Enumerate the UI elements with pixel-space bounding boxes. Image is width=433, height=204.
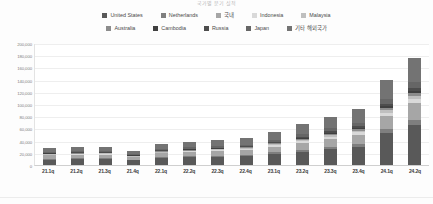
bar-column[interactable] — [373, 44, 401, 165]
bar-segment — [296, 152, 309, 165]
chart-legend: United StatesNetherlands국내IndonesiaMalay… — [0, 9, 433, 35]
legend-item-국내[interactable]: 국내 — [216, 13, 234, 18]
bar-column[interactable] — [232, 44, 260, 165]
plot-area — [34, 44, 429, 166]
stacked-bar[interactable] — [183, 142, 196, 165]
stacked-bar[interactable] — [324, 117, 337, 165]
stacked-bar[interactable] — [240, 138, 253, 165]
legend-item-cambodia[interactable]: Cambodia — [153, 26, 186, 31]
legend-item-japan[interactable]: Japan — [246, 26, 269, 31]
y-axis-tick-label: 20,000 — [19, 151, 32, 156]
y-axis-tick-label: 120,000 — [17, 90, 32, 95]
bar-segment — [99, 159, 112, 165]
y-axis: 200,000180,000160,000140,000120,000100,0… — [0, 44, 34, 166]
x-axis-tick-label: 23.1q — [260, 168, 288, 174]
x-axis-tick-label: 22.1q — [147, 168, 175, 174]
stacked-bar[interactable] — [380, 80, 393, 165]
bar-column[interactable] — [63, 44, 91, 165]
legend-item-label: Malaysia — [309, 13, 330, 18]
y-axis-tick-label: 160,000 — [17, 66, 32, 71]
legend-item-label: Cambodia — [161, 26, 186, 31]
x-axis-tick-label: 21.4q — [119, 168, 147, 174]
x-axis-tick-label: 23.4q — [344, 168, 372, 174]
legend-item-australia[interactable]: Australia — [106, 26, 135, 31]
bar-segment — [408, 82, 421, 89]
bar-segment — [352, 135, 365, 144]
x-axis-tick-label: 23.2q — [288, 168, 316, 174]
y-axis-tick-label: 80,000 — [19, 115, 32, 120]
stacked-bar[interactable] — [268, 132, 281, 165]
legend-item-label: Netherlands — [169, 13, 198, 18]
legend-item-label: Indonesia — [260, 13, 283, 18]
legend-row-2: AustraliaCambodiaRussiaJapan기타 해외국가 — [0, 22, 433, 35]
stacked-bar[interactable] — [127, 151, 140, 165]
stacked-bar[interactable] — [211, 140, 224, 165]
legend-item-label: 국내 — [224, 13, 234, 18]
legend-swatch-icon — [252, 13, 257, 18]
stacked-bar[interactable] — [155, 144, 168, 165]
stacked-bar[interactable] — [43, 148, 56, 165]
bar-column[interactable] — [119, 44, 147, 165]
stacked-bar[interactable] — [296, 124, 309, 165]
bar-segment — [296, 124, 309, 134]
legend-item-malaysia[interactable]: Malaysia — [301, 13, 330, 18]
bar-segment — [155, 158, 168, 165]
x-axis-tick-label: 22.4q — [232, 168, 260, 174]
bar-segment — [352, 147, 365, 165]
x-axis-tick-label: 24.2q — [401, 168, 429, 174]
footer-divider — [0, 197, 433, 198]
bar-column[interactable] — [91, 44, 119, 165]
legend-item-netherlands[interactable]: Netherlands — [161, 13, 198, 18]
bar-column[interactable] — [176, 44, 204, 165]
y-axis-tick-label: 0 — [30, 164, 32, 169]
legend-item-기타-해외국가[interactable]: 기타 해외국가 — [287, 26, 327, 31]
stacked-bar[interactable] — [352, 109, 365, 165]
bar-segment — [268, 154, 281, 165]
y-axis-tick-label: 60,000 — [19, 127, 32, 132]
bar-segment — [240, 156, 253, 165]
bar-column[interactable] — [316, 44, 344, 165]
x-axis-tick-label: 22.2q — [175, 168, 203, 174]
legend-item-united-states[interactable]: United States — [102, 13, 142, 18]
bar-series-container — [35, 44, 429, 165]
legend-swatch-icon — [246, 26, 251, 31]
bar-column[interactable] — [401, 44, 429, 165]
bar-segment — [324, 139, 337, 147]
x-axis-tick-label: 21.1q — [34, 168, 62, 174]
bar-column[interactable] — [288, 44, 316, 165]
bar-segment — [183, 157, 196, 165]
bar-segment — [408, 58, 421, 82]
bar-segment — [324, 117, 337, 129]
bar-column[interactable] — [204, 44, 232, 165]
legend-swatch-icon — [301, 13, 306, 18]
stacked-bar[interactable] — [408, 58, 421, 165]
x-axis-tick-label: 21.3q — [90, 168, 118, 174]
y-axis-tick-label: 40,000 — [19, 139, 32, 144]
legend-swatch-icon — [153, 26, 158, 31]
legend-item-label: Russia — [212, 26, 228, 31]
legend-item-label: Australia — [114, 26, 135, 31]
bar-column[interactable] — [260, 44, 288, 165]
bar-segment — [380, 116, 393, 129]
bar-segment — [324, 149, 337, 165]
bar-segment — [380, 80, 393, 99]
bar-segment — [408, 125, 421, 165]
y-axis-tick-label: 200,000 — [17, 42, 32, 47]
x-axis: 21.1q21.2q21.3q21.4q22.1q22.2q22.3q22.4q… — [34, 168, 429, 174]
plot-wrapper: 200,000180,000160,000140,000120,000100,0… — [0, 44, 433, 179]
x-axis-tick-label: 22.3q — [203, 168, 231, 174]
legend-swatch-icon — [106, 26, 111, 31]
legend-item-indonesia[interactable]: Indonesia — [252, 13, 283, 18]
bar-column[interactable] — [35, 44, 63, 165]
legend-item-russia[interactable]: Russia — [204, 26, 228, 31]
bar-column[interactable] — [345, 44, 373, 165]
legend-item-label: 기타 해외국가 — [295, 26, 327, 31]
chart-root: 국가별 분기 실적 United StatesNetherlands국내Indo… — [0, 0, 433, 204]
legend-item-label: United States — [110, 13, 142, 18]
stacked-bar[interactable] — [99, 147, 112, 165]
stacked-bar[interactable] — [71, 147, 84, 165]
legend-swatch-icon — [204, 26, 209, 31]
bar-column[interactable] — [148, 44, 176, 165]
legend-swatch-icon — [287, 26, 292, 31]
legend-row-1: United StatesNetherlands국내IndonesiaMalay… — [0, 9, 433, 22]
